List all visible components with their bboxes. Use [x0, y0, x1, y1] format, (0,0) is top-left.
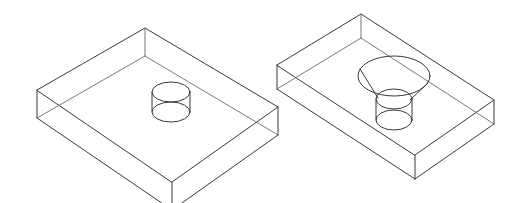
isometric-wireframe-drawing — [0, 0, 515, 203]
figure-left — [37, 28, 278, 203]
figure-right — [277, 14, 494, 179]
drawing-canvas — [0, 0, 515, 203]
right-plate-top-face — [277, 14, 494, 155]
